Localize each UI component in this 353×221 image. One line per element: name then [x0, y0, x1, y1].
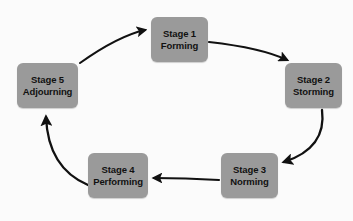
stage-box-adjourning[interactable]: Stage 5 Adjourning — [17, 63, 78, 108]
stage-number-label: Stage 4 — [101, 164, 134, 176]
stage-box-forming[interactable]: Stage 1 Forming — [151, 17, 208, 62]
stage-box-performing[interactable]: Stage 4 Performing — [88, 153, 148, 198]
stage-name-label: Storming — [293, 86, 334, 98]
stage-box-norming[interactable]: Stage 3 Norming — [221, 153, 278, 198]
arrow-stage2-to-stage3 — [284, 110, 323, 162]
stage-number-label: Stage 5 — [31, 74, 64, 86]
stage-name-label: Norming — [230, 176, 268, 188]
cycle-diagram: Stage 1 Forming Stage 2 Storming Stage 3… — [0, 0, 353, 221]
arrow-stage1-to-stage2 — [209, 42, 287, 60]
stage-number-label: Stage 1 — [163, 28, 196, 40]
arrow-stage5-to-stage1 — [80, 30, 145, 63]
stage-number-label: Stage 2 — [297, 74, 330, 86]
stage-name-label: Performing — [93, 176, 143, 188]
stage-number-label: Stage 3 — [233, 164, 266, 176]
arrow-stage3-to-stage4 — [154, 178, 219, 180]
stage-name-label: Adjourning — [23, 86, 73, 98]
arrow-stage4-to-stage5 — [46, 117, 88, 185]
stage-name-label: Forming — [161, 40, 198, 52]
stage-box-storming[interactable]: Stage 2 Storming — [285, 63, 342, 108]
